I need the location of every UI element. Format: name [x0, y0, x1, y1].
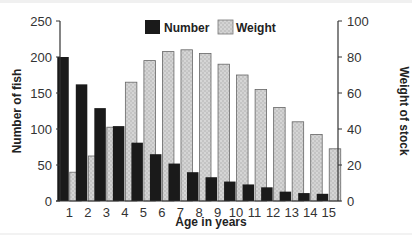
number-bar — [76, 84, 88, 201]
legend-number-swatch — [145, 20, 160, 34]
legend-number-label: Number — [164, 21, 210, 35]
y-axis-title: Number of fish — [10, 69, 24, 154]
legend: Number Weight — [145, 20, 276, 35]
weight-bar — [237, 75, 249, 201]
x-axis-title: Age in years — [175, 215, 247, 229]
x-tick-label: 11 — [248, 205, 262, 220]
y2-tick-label: 100 — [347, 14, 369, 29]
weight-bar — [311, 134, 323, 201]
x-tick-label: 1 — [66, 205, 73, 220]
number-bar — [168, 164, 180, 201]
number-bar — [280, 192, 292, 201]
weight-bar — [292, 122, 304, 201]
x-tick-label: 15 — [321, 205, 335, 220]
number-bar — [224, 182, 236, 201]
bars-group — [57, 50, 340, 201]
y-tick-label: 50 — [38, 158, 52, 173]
y2-tick-label: 40 — [347, 122, 361, 137]
number-bar — [298, 193, 310, 201]
number-bar — [94, 108, 106, 201]
number-bar — [150, 154, 162, 201]
legend-weight-swatch — [218, 20, 233, 34]
number-bar — [261, 187, 273, 201]
number-bar — [317, 194, 329, 201]
y-tick-label: 250 — [30, 14, 52, 29]
weight-bar — [218, 64, 230, 201]
x-tick-label: 3 — [103, 205, 110, 220]
y-tick-label: 150 — [30, 86, 52, 101]
x-tick-label: 13 — [284, 205, 298, 220]
y-tick-label: 200 — [30, 50, 52, 65]
y2-tick-label: 60 — [347, 86, 361, 101]
x-tick-label: 12 — [266, 205, 280, 220]
y-tick-label: 100 — [30, 122, 52, 137]
number-bar — [243, 184, 255, 201]
x-tick-label: 4 — [121, 205, 128, 220]
y2-axis-title: Weight of stock — [397, 66, 411, 155]
x-tick-label: 6 — [158, 205, 165, 220]
bar-chart: 1234567891011121314150501001502002500204… — [0, 0, 412, 247]
number-bar — [206, 177, 218, 201]
y-tick-label: 0 — [45, 194, 52, 209]
x-tick-label: 5 — [140, 205, 147, 220]
number-bar — [131, 143, 143, 201]
legend-weight-label: Weight — [236, 21, 276, 35]
x-tick-label: 2 — [84, 205, 91, 220]
y2-tick-label: 80 — [347, 50, 361, 65]
y2-tick-label: 0 — [347, 194, 354, 209]
x-tick-label: 14 — [303, 205, 317, 220]
number-bar — [187, 172, 199, 201]
weight-bar — [329, 149, 341, 201]
weight-bar — [274, 107, 286, 201]
weight-bar — [255, 89, 267, 201]
y2-tick-label: 20 — [347, 158, 361, 173]
number-bar — [113, 126, 125, 201]
